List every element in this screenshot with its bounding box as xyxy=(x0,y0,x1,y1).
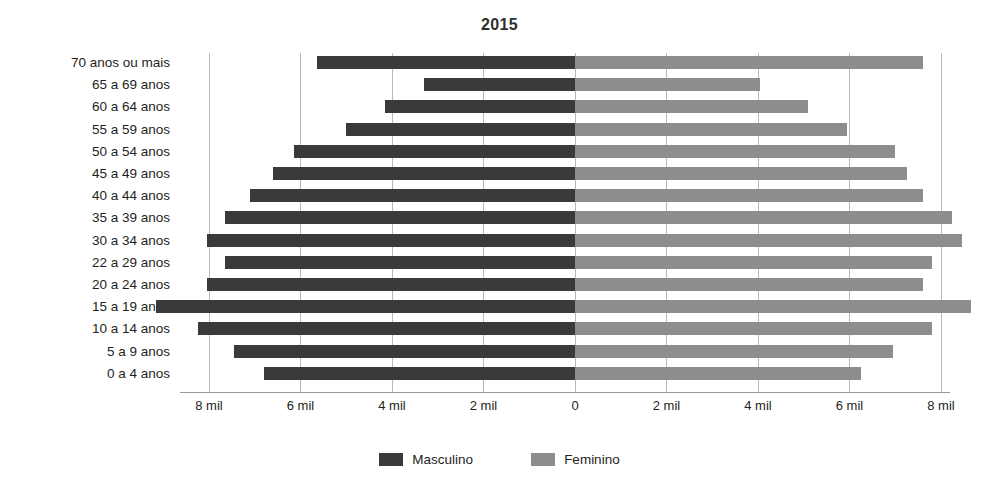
pyramid-row: 15 a 19 anos xyxy=(0,300,999,313)
bar-masculino xyxy=(156,300,575,313)
bar-masculino xyxy=(207,278,575,291)
bar-feminino xyxy=(575,278,923,291)
legend-item: Masculino xyxy=(379,452,473,467)
age-group-label: 5 a 9 anos xyxy=(10,345,170,358)
bar-feminino xyxy=(575,56,923,69)
age-group-label: 10 a 14 anos xyxy=(10,322,170,335)
bar-feminino xyxy=(575,256,932,269)
bar-masculino xyxy=(317,56,575,69)
bar-feminino xyxy=(575,322,932,335)
pyramid-row: 60 a 64 anos xyxy=(0,100,999,113)
x-tick-label: 4 mil xyxy=(718,398,798,413)
population-pyramid-chart: 2015 70 anos ou mais65 a 69 anos60 a 64 … xyxy=(0,0,999,487)
x-tick-label: 8 mil xyxy=(901,398,981,413)
bar-feminino xyxy=(575,367,861,380)
bar-masculino xyxy=(264,367,575,380)
bar-feminino xyxy=(575,211,952,224)
bar-feminino xyxy=(575,123,847,136)
chart-title: 2015 xyxy=(0,16,999,34)
bar-masculino xyxy=(294,145,575,158)
bar-masculino xyxy=(250,189,575,202)
x-axis-tick-labels: 8 mil6 mil4 mil2 mil02 mil4 mil6 mil8 mi… xyxy=(0,398,999,418)
bar-masculino xyxy=(273,167,575,180)
bar-masculino xyxy=(225,256,575,269)
x-tick-label: 2 mil xyxy=(444,398,524,413)
age-group-label: 15 a 19 anos xyxy=(10,300,170,313)
pyramid-row: 55 a 59 anos xyxy=(0,123,999,136)
pyramid-row: 0 a 4 anos xyxy=(0,367,999,380)
x-tick-label: 4 mil xyxy=(352,398,432,413)
bar-feminino xyxy=(575,345,893,358)
pyramid-row: 10 a 14 anos xyxy=(0,322,999,335)
bar-feminino xyxy=(575,189,923,202)
pyramid-row: 40 a 44 anos xyxy=(0,189,999,202)
bar-masculino xyxy=(225,211,575,224)
pyramid-row: 30 a 34 anos xyxy=(0,234,999,247)
x-tick-label: 2 mil xyxy=(627,398,707,413)
pyramid-row: 65 a 69 anos xyxy=(0,78,999,91)
bar-feminino xyxy=(575,234,962,247)
pyramid-row: 35 a 39 anos xyxy=(0,211,999,224)
bar-masculino xyxy=(198,322,575,335)
age-group-label: 60 a 64 anos xyxy=(10,100,170,113)
age-group-label: 65 a 69 anos xyxy=(10,78,170,91)
pyramid-row: 70 anos ou mais xyxy=(0,56,999,69)
bar-feminino xyxy=(575,300,971,313)
bar-masculino xyxy=(234,345,575,358)
bar-feminino xyxy=(575,78,760,91)
age-group-label: 30 a 34 anos xyxy=(10,234,170,247)
x-axis-line xyxy=(180,392,950,393)
pyramid-row: 20 a 24 anos xyxy=(0,278,999,291)
bar-feminino xyxy=(575,167,907,180)
age-group-label: 70 anos ou mais xyxy=(10,56,170,69)
legend-label: Feminino xyxy=(564,452,620,467)
bar-feminino xyxy=(575,145,895,158)
pyramid-row: 22 a 29 anos xyxy=(0,256,999,269)
age-group-label: 40 a 44 anos xyxy=(10,189,170,202)
pyramid-row: 50 a 54 anos xyxy=(0,145,999,158)
legend-label: Masculino xyxy=(412,452,473,467)
age-group-label: 35 a 39 anos xyxy=(10,211,170,224)
plot-area: 70 anos ou mais65 a 69 anos60 a 64 anos5… xyxy=(0,50,999,394)
age-group-label: 55 a 59 anos xyxy=(10,123,170,136)
x-tick-label: 8 mil xyxy=(169,398,249,413)
age-group-label: 0 a 4 anos xyxy=(10,367,170,380)
bar-masculino xyxy=(424,78,575,91)
pyramid-row: 5 a 9 anos xyxy=(0,345,999,358)
bar-feminino xyxy=(575,100,808,113)
age-group-label: 20 a 24 anos xyxy=(10,278,170,291)
bar-masculino xyxy=(207,234,575,247)
age-group-label: 45 a 49 anos xyxy=(10,167,170,180)
x-tick-label: 0 xyxy=(535,398,615,413)
legend-swatch-feminino xyxy=(531,453,555,466)
pyramid-row: 45 a 49 anos xyxy=(0,167,999,180)
age-group-label: 22 a 29 anos xyxy=(10,256,170,269)
legend-swatch-masculino xyxy=(379,453,403,466)
x-tick-label: 6 mil xyxy=(810,398,890,413)
x-tick-label: 6 mil xyxy=(261,398,341,413)
bar-masculino xyxy=(346,123,575,136)
chart-legend: MasculinoFeminino xyxy=(0,452,999,467)
bar-masculino xyxy=(385,100,575,113)
legend-item: Feminino xyxy=(531,452,620,467)
age-group-label: 50 a 54 anos xyxy=(10,145,170,158)
